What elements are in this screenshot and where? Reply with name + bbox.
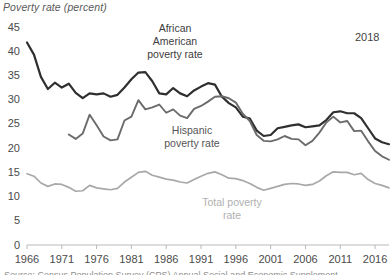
x-tick-label-2016: 2016 (358, 254, 392, 265)
x-tick-label-1996: 1996 (219, 254, 253, 265)
y-tick-label-35: 35 (0, 70, 20, 81)
annotation-african-american-poverty-rate: AfricanAmericanpoverty rate (133, 22, 217, 60)
y-tick-label-10: 10 (0, 191, 20, 202)
y-tick-label-30: 30 (0, 94, 20, 105)
y-tick-label-20: 20 (0, 143, 20, 154)
annotation-hispanic-line-1: Hispanic (146, 124, 238, 137)
y-tick-label-45: 45 (0, 22, 20, 33)
annotation-total-line-1: Total poverty (186, 196, 278, 209)
x-tick-label-2001: 2001 (254, 254, 288, 265)
y-tick-label-0: 0 (0, 240, 20, 251)
x-tick-label-1976: 1976 (80, 254, 114, 265)
x-tick-label-1981: 1981 (114, 254, 148, 265)
x-tick-label-1986: 1986 (149, 254, 183, 265)
x-tick-label-1971: 1971 (45, 254, 79, 265)
year-label-2018: 2018 (355, 31, 379, 43)
x-tick-label-1991: 1991 (184, 254, 218, 265)
annotation-hispanic-poverty-rate: Hispanicpoverty rate (146, 124, 238, 150)
x-tick-label-1966: 1966 (10, 254, 44, 265)
y-tick-label-25: 25 (0, 118, 20, 129)
annotation-total-line-2: rate (186, 209, 278, 222)
series-line-total (27, 171, 389, 191)
x-tick-label-2006: 2006 (288, 254, 322, 265)
x-tick-label-2011: 2011 (323, 254, 357, 265)
axis-lines (27, 245, 389, 249)
annotation-african-american-line-3: poverty rate (133, 48, 217, 61)
series-lines (27, 43, 389, 192)
annotation-total-poverty-rate: Total povertyrate (186, 196, 278, 222)
annotation-african-american-line-2: American (133, 35, 217, 48)
y-tick-label-5: 5 (0, 215, 20, 226)
y-tick-label-15: 15 (0, 167, 20, 178)
annotation-hispanic-line-2: poverty rate (146, 137, 238, 150)
annotation-african-american-line-1: African (133, 22, 217, 35)
y-tick-label-40: 40 (0, 46, 20, 57)
source-note: Source: Census Population Survey (CPS) A… (4, 270, 338, 275)
